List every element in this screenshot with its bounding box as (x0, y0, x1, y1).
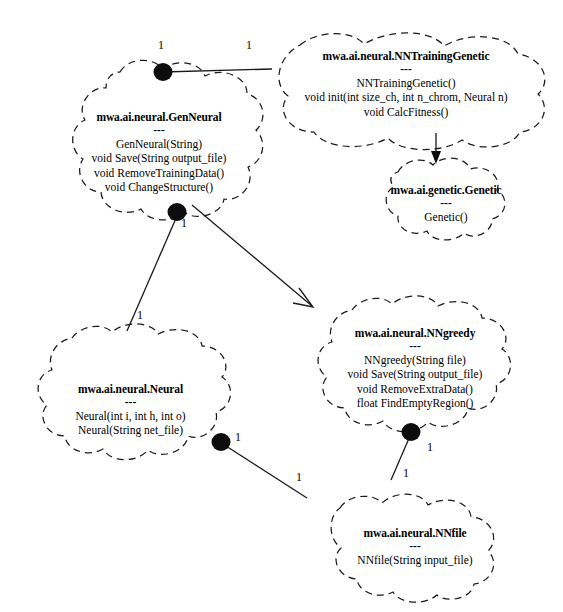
node-shape-genetic[interactable] (386, 158, 505, 240)
edge-gen-neural-to-nn-greedy[interactable] (192, 205, 312, 306)
edge-gen-neural-to-neural[interactable] (127, 216, 177, 331)
node-shape-gen-neural[interactable] (73, 60, 263, 220)
diagram-canvas (0, 0, 563, 612)
node-shape-nn-file[interactable] (331, 494, 494, 602)
edge-nn-greedy-to-nn-file[interactable] (391, 436, 410, 480)
association-end-dot-gen-neural-top[interactable] (154, 63, 173, 81)
association-end-dot-gen-neural-bottom[interactable] (168, 203, 187, 221)
edge-neural-to-nn-file[interactable] (226, 446, 307, 498)
association-end-dot-neural-right[interactable] (212, 433, 231, 451)
node-shape-neural[interactable] (38, 324, 231, 460)
uml-class-diagram: mwa.ai.neural.GenNeural --- GenNeural(St… (0, 0, 563, 612)
node-shape-nn-greedy[interactable] (318, 296, 511, 432)
node-shape-nn-training-genetic[interactable] (279, 33, 545, 150)
association-end-dot-nn-greedy-bottom[interactable] (402, 423, 421, 441)
